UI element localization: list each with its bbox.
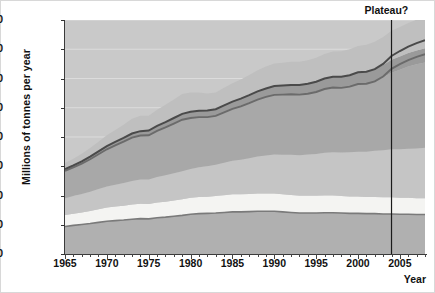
x-tick-mark-minor bbox=[425, 254, 426, 257]
annotation-label: Plateau? bbox=[365, 4, 409, 16]
y-tick-label: 1000 bbox=[0, 189, 3, 201]
x-tick-label: 1975 bbox=[129, 257, 169, 269]
chart-figure: Millions of tonnes per year 050010001500… bbox=[0, 0, 435, 293]
y-tick-label: 1500 bbox=[0, 159, 3, 171]
x-tick-label: 1965 bbox=[45, 257, 85, 269]
x-tick-label: 1990 bbox=[254, 257, 294, 269]
plot-area bbox=[65, 20, 425, 254]
x-tick-label: 2005 bbox=[380, 257, 420, 269]
y-tick-mark bbox=[61, 49, 65, 50]
y-tick-label: 500 bbox=[0, 218, 3, 230]
y-tick-mark bbox=[61, 79, 65, 80]
x-tick-label: 2000 bbox=[338, 257, 378, 269]
y-tick-mark bbox=[61, 20, 65, 21]
y-tick-label: 0 bbox=[0, 247, 3, 259]
x-axis-title: Year bbox=[404, 273, 426, 285]
y-tick-label: 2000 bbox=[0, 130, 3, 142]
y-tick-mark bbox=[61, 225, 65, 226]
y-tick-label: 4000 bbox=[0, 13, 3, 25]
x-tick-label: 1980 bbox=[171, 257, 211, 269]
y-tick-label: 3000 bbox=[0, 72, 3, 84]
x-tick-label: 1985 bbox=[212, 257, 252, 269]
x-tick-label: 1970 bbox=[87, 257, 127, 269]
y-tick-mark bbox=[61, 196, 65, 197]
stacked-area-svg bbox=[65, 20, 425, 254]
y-tick-mark bbox=[61, 166, 65, 167]
y-tick-mark bbox=[61, 108, 65, 109]
x-tick-label: 1995 bbox=[296, 257, 336, 269]
y-tick-label: 2500 bbox=[0, 101, 3, 113]
y-tick-label: 3500 bbox=[0, 42, 3, 54]
y-axis-title: Millions of tonnes per year bbox=[20, 0, 32, 235]
y-tick-mark bbox=[61, 137, 65, 138]
